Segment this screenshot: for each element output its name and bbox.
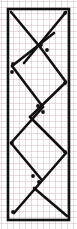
diagonal-mid-left-up — [12, 66, 43, 107]
diagonal-mid-right-down — [30, 82, 66, 117]
joint-upper-cross-left — [39, 43, 43, 47]
joint-center-cross-lower — [41, 110, 45, 114]
joint-upper-cross-right — [45, 48, 49, 52]
joint-left-lower — [10, 141, 14, 145]
joint-bottom-left-corner — [11, 210, 15, 214]
diagonal-lower-right-up — [30, 117, 66, 153]
diagonal-bottom-left-down — [11, 143, 41, 179]
joint-right-mid — [63, 81, 67, 85]
joint-left-upper-lower — [10, 70, 14, 74]
joint-bottom-cross-lower — [37, 180, 41, 184]
truss-diagram-figure — [0, 0, 77, 229]
joint-right-lower — [63, 150, 67, 154]
diagonal-upper-right-down — [40, 47, 66, 82]
joint-left-upper — [11, 62, 15, 66]
joint-bottom-cross-upper — [31, 174, 35, 178]
diagonal-bottom-rise — [34, 188, 67, 216]
truss-drawing — [0, 0, 77, 229]
diagonal-top-left-down — [11, 12, 40, 47]
frame-outline — [8, 9, 69, 220]
bracing-members-group — [11, 12, 67, 216]
joint-top-right-corner — [63, 11, 67, 15]
joint-center-cross-upper — [36, 104, 40, 108]
